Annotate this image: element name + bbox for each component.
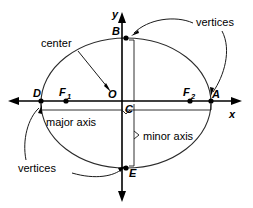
point-label-E: E [129,167,137,179]
x-axis-arrow-left [8,97,19,105]
point-label-B: B [112,25,120,37]
vertices-top-arrowhead-B [131,30,139,36]
annotation-minor-axis-label: minor axis [143,130,194,142]
minor-axis-brace-tick [134,131,139,139]
x-axis-label: x [228,108,236,120]
vertices-top-leader-to-A [213,31,227,92]
annotation-vertices-bottom-label: vertices [18,162,56,174]
point-dot-D [38,98,43,103]
y-axis-label: y [111,8,119,20]
annotation-center-label: center [41,37,72,49]
point-label-D: D [33,87,41,99]
vertices-top-leader-to-B [134,19,193,33]
point-label-F2-subscript: 2 [190,92,196,101]
point-label-F1: F [59,86,66,98]
point-dot-E [123,165,128,170]
annotation-vertices-top-label: vertices [196,16,234,28]
center-leader-line [78,51,108,88]
y-axis-arrow-top [118,12,126,23]
point-dot-B [123,35,128,40]
x-axis-arrow-right [231,97,242,105]
ellipse-diagram: x y D F 1 F 2 A B E O C center vertices [0,0,253,208]
vertices-bottom-leader-to-E [72,169,122,177]
point-label-F1-subscript: 1 [67,92,71,101]
point-label-F2: F [183,86,190,98]
vertices-bottom-leader-to-D [25,108,39,160]
annotation-major-axis-label: major axis [46,116,97,128]
y-axis-arrow-bottom [118,191,126,202]
diagram-canvas: x y D F 1 F 2 A B E O C center vertices [0,0,253,208]
